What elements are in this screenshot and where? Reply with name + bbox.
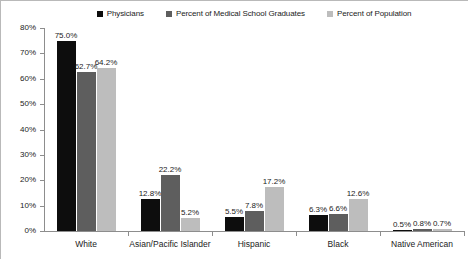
bar[interactable] — [393, 230, 412, 231]
bar[interactable] — [161, 175, 180, 231]
bar-column[interactable]: 75.0% — [57, 28, 76, 231]
bar-column[interactable]: 64.2% — [97, 28, 116, 231]
bar-column[interactable]: 22.2% — [161, 28, 180, 231]
bar-group-bars: 12.8%22.2%5.2% — [128, 28, 212, 231]
bar-column[interactable]: 5.5% — [225, 28, 244, 231]
legend-item-label: Physicians — [107, 9, 144, 19]
bar-column[interactable]: 0.5% — [393, 28, 412, 231]
bar-column[interactable]: 12.8% — [141, 28, 160, 231]
bar-value-label: 6.3% — [309, 205, 327, 214]
bar-group: 75.0%62.7%64.2% — [44, 28, 128, 231]
legend-square-marker-icon — [166, 11, 172, 17]
x-axis-tick — [212, 231, 213, 236]
bar-group: 0.5%0.8%0.7% — [380, 28, 464, 231]
x-axis-category-label: Black — [296, 239, 380, 249]
bar-column[interactable]: 17.2% — [265, 28, 284, 231]
bar-value-label: 0.7% — [433, 219, 451, 228]
bar[interactable] — [433, 229, 452, 231]
bar-column[interactable]: 12.6% — [349, 28, 368, 231]
x-axis-category-label: Hispanic — [212, 239, 296, 249]
bar-group: 12.8%22.2%5.2% — [128, 28, 212, 231]
bar-column[interactable]: 7.8% — [245, 28, 264, 231]
legend-square-marker-icon — [97, 11, 103, 17]
y-axis-tick-label: 70% — [8, 49, 36, 57]
bar-group-bars: 6.3%6.6%12.6% — [296, 28, 380, 231]
bar[interactable] — [77, 72, 96, 231]
legend-item-label: Percent of Population — [337, 9, 411, 19]
bar-column[interactable]: 5.2% — [181, 28, 200, 231]
bar-group-bars: 0.5%0.8%0.7% — [380, 28, 464, 231]
x-axis-tick — [128, 231, 129, 236]
x-axis-tick — [464, 231, 465, 236]
bar[interactable] — [97, 68, 116, 231]
bar[interactable] — [225, 217, 244, 231]
legend-item-medical-school-graduates: Percent of Medical School Graduates — [166, 9, 305, 19]
bar[interactable] — [309, 215, 328, 231]
y-axis-tick-label: 0% — [8, 227, 36, 235]
bar-value-label: 7.8% — [245, 201, 263, 210]
bar[interactable] — [265, 187, 284, 231]
bar-value-label: 17.2% — [263, 177, 286, 186]
x-axis-tick — [296, 231, 297, 236]
bar-value-label: 6.6% — [329, 204, 347, 213]
bar-value-label: 5.5% — [225, 207, 243, 216]
x-axis-category-label: Native American — [380, 239, 464, 249]
bar-group-bars: 5.5%7.8%17.2% — [212, 28, 296, 231]
plot-area: 75.0%62.7%64.2%12.8%22.2%5.2%5.5%7.8%17.… — [44, 28, 464, 231]
bar-column[interactable]: 62.7% — [77, 28, 96, 231]
x-axis-category-label: White — [44, 239, 128, 249]
chart-legend: Physicians Percent of Medical School Gra… — [44, 6, 464, 22]
bar-chart: Physicians Percent of Medical School Gra… — [0, 0, 468, 259]
x-axis-tick — [380, 231, 381, 236]
bar[interactable] — [245, 211, 264, 231]
bar-group: 5.5%7.8%17.2% — [212, 28, 296, 231]
bar-group: 6.3%6.6%12.6% — [296, 28, 380, 231]
bar-value-label: 75.0% — [55, 31, 78, 40]
bar-value-label: 12.6% — [347, 189, 370, 198]
legend-item-physicians: Physicians — [97, 9, 144, 19]
x-axis-line — [44, 231, 464, 232]
legend-item-label: Percent of Medical School Graduates — [176, 9, 305, 19]
y-axis-tick-label: 10% — [8, 202, 36, 210]
bar-column[interactable]: 6.6% — [329, 28, 348, 231]
bar-value-label: 22.2% — [159, 165, 182, 174]
bar-value-label: 0.5% — [393, 220, 411, 229]
bar[interactable] — [329, 214, 348, 231]
legend-square-marker-icon — [327, 11, 333, 17]
x-axis-category-label: Asian/Pacific Islander — [128, 239, 212, 249]
y-axis-tick — [40, 231, 45, 232]
legend-item-population: Percent of Population — [327, 9, 411, 19]
bar[interactable] — [181, 218, 200, 231]
bar-column[interactable]: 0.8% — [413, 28, 432, 231]
bar-column[interactable]: 6.3% — [309, 28, 328, 231]
bar[interactable] — [57, 41, 76, 231]
bar[interactable] — [349, 199, 368, 231]
bar-value-label: 12.8% — [139, 189, 162, 198]
bar-column[interactable]: 0.7% — [433, 28, 452, 231]
bar-value-label: 0.8% — [413, 219, 431, 228]
y-axis-tick-label: 50% — [8, 100, 36, 108]
bar[interactable] — [141, 199, 160, 231]
bar-value-label: 64.2% — [95, 58, 118, 67]
y-axis-tick-label: 60% — [8, 75, 36, 83]
y-axis-tick-label: 30% — [8, 151, 36, 159]
y-axis-tick-label: 20% — [8, 176, 36, 184]
y-axis-tick-label: 80% — [8, 24, 36, 32]
bar-value-label: 5.2% — [181, 208, 199, 217]
bar[interactable] — [413, 229, 432, 231]
bar-group-bars: 75.0%62.7%64.2% — [44, 28, 128, 231]
y-axis-tick-label: 40% — [8, 126, 36, 134]
